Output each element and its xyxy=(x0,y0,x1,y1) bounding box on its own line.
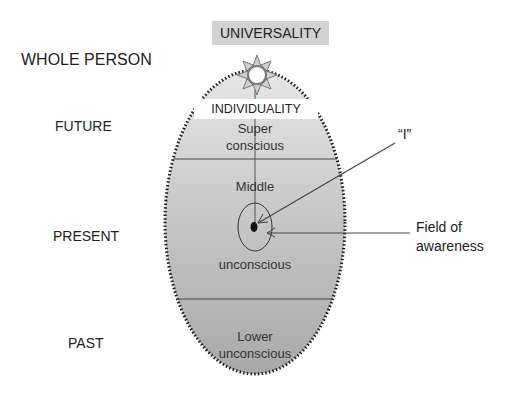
individuality-box: INDIVIDUALITY xyxy=(194,99,318,119)
middle-label-top: Middle xyxy=(205,178,305,195)
i-callout-label: “I” xyxy=(398,126,411,142)
past-label: PAST xyxy=(68,335,104,351)
lower-line-2: unconscious xyxy=(195,345,315,362)
sun-star-icon xyxy=(237,55,277,95)
field-line-1: Field of xyxy=(416,218,484,237)
super-line-2: conscious xyxy=(205,137,305,154)
super-line-1: Super xyxy=(205,120,305,137)
field-line-2: awareness xyxy=(416,237,484,256)
lower-unconscious-label: Lower unconscious xyxy=(195,328,315,362)
middle-label-bottom: unconscious xyxy=(195,256,315,273)
future-label: FUTURE xyxy=(55,118,112,134)
i-self-dot xyxy=(251,222,258,232)
field-of-awareness-label: Field of awareness xyxy=(416,218,484,256)
lower-line-1: Lower xyxy=(195,328,315,345)
present-label: PRESENT xyxy=(53,228,119,244)
superconscious-label: Super conscious xyxy=(205,120,305,154)
universality-box: UNIVERSALITY xyxy=(212,21,329,45)
whole-person-label: WHOLE PERSON xyxy=(21,51,152,69)
